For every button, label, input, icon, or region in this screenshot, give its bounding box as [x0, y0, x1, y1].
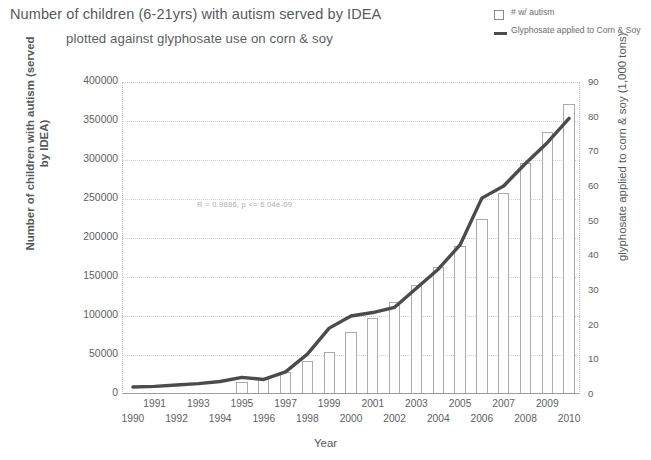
x-axis-tick-label: 2000 — [340, 413, 363, 424]
x-axis-title: Year — [0, 437, 651, 449]
y-axis-right-tick-label: 70 — [588, 145, 599, 156]
line-swatch-icon — [494, 25, 507, 35]
x-axis-tick-label: 2001 — [361, 398, 384, 409]
correlation-annotation: R = 0.9886, p <= 6.04e-09 — [197, 200, 292, 209]
x-axis-tick-label: 2004 — [427, 413, 450, 424]
y-axis-right-tick-label: 40 — [588, 249, 599, 260]
y-axis-left-tick-label: 0 — [112, 387, 118, 398]
x-axis-tick-label: 1994 — [209, 413, 232, 424]
x-axis-tick-label: 2003 — [405, 398, 428, 409]
y-axis-left-tick-label: 350000 — [83, 114, 118, 125]
y-axis-left-tick-label: 250000 — [83, 192, 118, 203]
y-axis-left-tick-label: 300000 — [83, 153, 118, 164]
chart-subtitle-line-2: plotted against glyphosate use on corn &… — [66, 31, 333, 46]
y-axis-right-ticks: 0102030405060708090 — [588, 82, 618, 394]
y-axis-left-tick-label: 100000 — [83, 309, 118, 320]
x-axis-tick-label: 1993 — [187, 398, 210, 409]
x-axis-tick-label: 2006 — [471, 413, 494, 424]
y-axis-right-tick-label: 30 — [588, 284, 599, 295]
plot-area — [122, 82, 580, 394]
x-axis-tick-label: 1991 — [143, 398, 166, 409]
x-axis-tick-label: 1997 — [274, 398, 297, 409]
y-axis-left-tick-label: 150000 — [83, 270, 118, 281]
y-axis-left-tick-label: 50000 — [89, 348, 118, 359]
y-axis-right-title: glyphosate applied to corn & soy (1,000 … — [616, 32, 630, 262]
y-axis-right-tick-label: 0 — [588, 388, 593, 399]
x-axis-tick-label: 2010 — [558, 413, 581, 424]
legend-label-autism: # w/ autism — [511, 7, 554, 18]
chart-title-line-1: Number of children (6-21yrs) with autism… — [10, 6, 381, 22]
x-axis-tick-label: 1996 — [252, 413, 275, 424]
legend-item-autism: # w/ autism — [494, 7, 646, 20]
x-axis-tick-label: 1990 — [122, 413, 145, 424]
y-axis-right-tick-label: 20 — [588, 319, 599, 330]
x-axis-tick-label: 1998 — [296, 413, 319, 424]
x-axis-tick-label: 2008 — [514, 413, 537, 424]
x-axis-tick-label: 2009 — [536, 398, 559, 409]
chart-canvas: Number of children (6-21yrs) with autism… — [0, 0, 651, 460]
x-axis-tick-label: 2005 — [449, 398, 472, 409]
y-axis-right-tick-label: 50 — [588, 215, 599, 226]
bar-swatch-icon — [494, 7, 507, 20]
y-axis-left-tick-label: 400000 — [83, 75, 118, 86]
plot-frame — [122, 82, 580, 394]
x-axis-tick-label: 1992 — [165, 413, 188, 424]
y-axis-left-ticks: 0500001000001500002000002500003000003500… — [36, 82, 118, 394]
y-axis-right-tick-label: 60 — [588, 180, 599, 191]
y-axis-right-tick-label: 80 — [588, 111, 599, 122]
x-axis-tick-label: 2007 — [492, 398, 515, 409]
y-axis-right-tick-label: 90 — [588, 76, 599, 87]
x-axis-tick-label: 2002 — [383, 413, 406, 424]
x-axis-tick-label: 1995 — [231, 398, 254, 409]
y-axis-right-tick-label: 10 — [588, 353, 599, 364]
y-axis-left-tick-label: 200000 — [83, 231, 118, 242]
x-axis-tick-label: 1999 — [318, 398, 341, 409]
x-axis-ticks: 1990199119921993199419951996199719981999… — [122, 396, 580, 432]
